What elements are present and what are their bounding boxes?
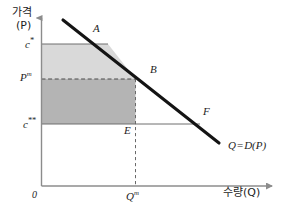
y-tick-c-star: c* (25, 36, 34, 50)
y-axis-label: 가격 (P) (12, 7, 32, 31)
demand-curve-label-rhs: D(P) (244, 139, 266, 151)
y-tick-pm-base: P (20, 71, 27, 83)
demand-curve-label-lhs: Q (228, 139, 236, 151)
y-tick-c-double-star: c** (23, 116, 36, 130)
demand-curve-label: Q=D(P) (228, 140, 266, 151)
y-axis-label-line2: (P) (16, 20, 32, 31)
point-label-a: A (93, 23, 100, 34)
point-label-e: E (124, 125, 131, 136)
point-label-b: B (150, 64, 157, 75)
upper-light-region (42, 44, 136, 79)
point-label-f: F (203, 106, 210, 117)
x-axis-label: 수량(Q) (223, 187, 260, 198)
y-tick-pm: Pm (20, 71, 32, 83)
y-tick-c-star-sup: * (30, 35, 34, 45)
y-tick-c-double-star-sup: ** (28, 115, 36, 125)
economics-demand-diagram: 가격 (P) 수량(Q) 0 c* Pm c** Qm A B E F Q=D(… (0, 0, 291, 214)
lower-dark-rectangle (42, 79, 136, 124)
origin-label: 0 (32, 190, 37, 200)
x-tick-qm: Qm (126, 190, 139, 202)
diagram-canvas (0, 0, 291, 214)
x-tick-qm-sup: m (134, 189, 139, 196)
demand-curve-label-eq: = (236, 139, 244, 151)
y-axis-label-line1: 가격 (12, 6, 32, 19)
x-tick-qm-base: Q (126, 190, 134, 202)
y-tick-pm-sup: m (27, 70, 32, 77)
